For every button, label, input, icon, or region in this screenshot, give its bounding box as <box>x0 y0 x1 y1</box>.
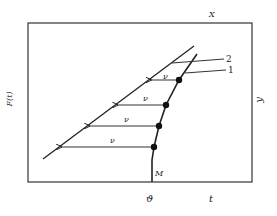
arrow-group <box>61 80 176 147</box>
arrow-label-3: ν <box>124 116 129 124</box>
leader-1 <box>185 70 226 73</box>
diagram: F(t) y X ϑ t 2 1 M ν ν ν ν <box>0 0 277 216</box>
leader-2 <box>172 59 224 63</box>
axis-label-left: F(t) <box>6 91 14 106</box>
axis-label-t: t <box>209 194 213 204</box>
point-4 <box>176 77 182 83</box>
label-line-2: 2 <box>226 55 232 64</box>
point-2 <box>156 123 162 129</box>
point-1 <box>151 144 157 150</box>
label-start-m: M <box>155 170 163 178</box>
line-2 <box>43 46 194 159</box>
axis-label-top: X <box>209 11 215 19</box>
arrow-label-4: ν <box>110 137 115 145</box>
plot-frame <box>28 23 252 182</box>
diagram-canvas <box>0 0 277 216</box>
point-3 <box>163 102 169 108</box>
axis-label-right: y <box>254 97 264 103</box>
label-curve-1: 1 <box>228 66 234 75</box>
arrow-label-2: ν <box>143 95 148 103</box>
curve-1 <box>152 54 197 182</box>
arrow-label-1: ν <box>163 73 168 81</box>
axis-label-origin: ϑ <box>146 194 153 204</box>
